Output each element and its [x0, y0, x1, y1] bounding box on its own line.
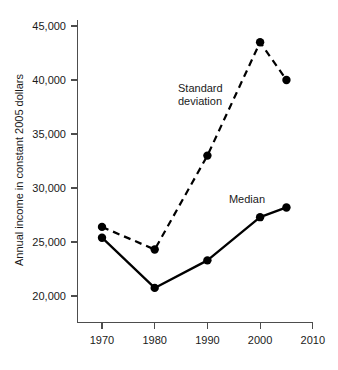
data-series-layer: [98, 38, 291, 292]
x-tick-2000: 2000: [248, 323, 272, 347]
median-label: Median: [229, 193, 265, 205]
y-axis-title: Annual income in constant 2005 dollars: [13, 73, 25, 266]
x-tick-label: 1980: [142, 334, 166, 346]
data-point: [256, 38, 264, 46]
x-tick-1990: 1990: [195, 323, 219, 347]
y-tick-30000: 30,000: [32, 182, 77, 194]
data-point: [151, 245, 159, 253]
standard-deviation-label-line1: Standard: [178, 82, 223, 94]
y-tick-label: 25,000: [32, 236, 66, 248]
data-point: [98, 233, 106, 241]
x-axis-ticks: 1970 1980 1990 2000 2010: [90, 323, 325, 347]
y-tick-40000: 40,000: [32, 74, 77, 86]
y-tick-20000: 20,000: [32, 290, 77, 302]
line-chart: Annual income in constant 2005 dollars 4…: [0, 0, 338, 370]
x-tick-label: 1990: [195, 334, 219, 346]
y-tick-45000: 45,000: [32, 20, 77, 32]
standard-deviation-label-line2: deviation: [178, 95, 222, 107]
y-tick-label: 30,000: [32, 182, 66, 194]
chart-figure: Annual income in constant 2005 dollars 4…: [0, 0, 338, 370]
y-tick-label: 45,000: [32, 20, 66, 32]
y-tick-label: 20,000: [32, 290, 66, 302]
x-tick-label: 2010: [301, 334, 325, 346]
x-tick-2010: 2010: [301, 323, 325, 347]
y-axis-title-text: Annual income in constant 2005 dollars: [13, 73, 25, 266]
data-point: [282, 203, 290, 211]
x-tick-1980: 1980: [142, 323, 166, 347]
x-tick-1970: 1970: [90, 323, 114, 347]
y-tick-label: 40,000: [32, 74, 66, 86]
data-point: [203, 151, 211, 159]
y-tick-25000: 25,000: [32, 236, 77, 248]
data-point: [151, 284, 159, 292]
data-point: [203, 256, 211, 264]
y-axis-ticks: 45,000 40,000 35,000 30,000 25,000 20,00…: [32, 20, 77, 302]
y-tick-35000: 35,000: [32, 128, 77, 140]
x-tick-label: 2000: [248, 334, 272, 346]
x-tick-label: 1970: [90, 334, 114, 346]
y-tick-label: 35,000: [32, 128, 66, 140]
data-point: [282, 76, 290, 84]
data-point: [98, 223, 106, 231]
series-annotations: Standard deviation Median: [178, 82, 265, 205]
data-point: [256, 213, 264, 221]
